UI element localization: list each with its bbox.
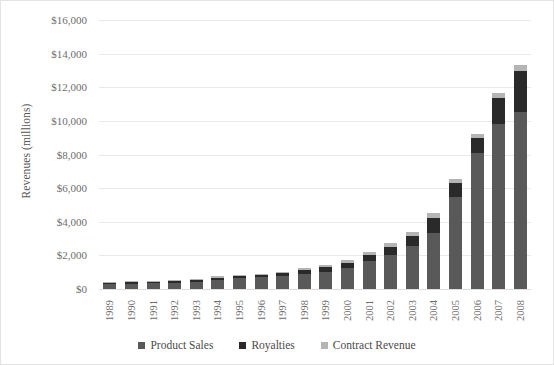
x-axis-tick-label: 1996	[256, 300, 267, 321]
bar-segment	[168, 283, 181, 289]
x-axis-tick: 1998	[298, 291, 311, 316]
y-axis-tick-label: $16,000	[51, 14, 87, 26]
bar-column[interactable]	[341, 260, 354, 289]
x-axis-tick-label: 2001	[364, 300, 375, 321]
x-axis-tick-label: 2007	[493, 300, 504, 321]
x-axis-tick-label: 1995	[234, 300, 245, 321]
x-axis-tick-label: 2005	[450, 300, 461, 321]
y-axis-tick-label: $0	[76, 283, 87, 295]
x-axis-tick-label: 2003	[407, 300, 418, 321]
legend-swatch-icon	[239, 342, 246, 349]
bar-segment	[427, 233, 440, 289]
bar-segment	[471, 153, 484, 289]
legend-item[interactable]: Royalties	[239, 339, 294, 351]
chart-figure: Revenues (millions) $0$2,000$4,000$6,000…	[0, 0, 554, 365]
legend-item[interactable]: Contract Revenue	[321, 339, 416, 351]
bar-segment	[406, 246, 419, 289]
x-axis-tick: 1989	[103, 291, 116, 316]
bar-segment	[363, 261, 376, 289]
x-axis-tick-label: 1997	[277, 300, 288, 321]
bar-column[interactable]	[449, 179, 462, 289]
bar-segment	[341, 268, 354, 289]
bar-segment	[514, 112, 527, 289]
bar-segment	[384, 255, 397, 289]
bar-column[interactable]	[190, 279, 203, 289]
bar-segment	[190, 282, 203, 289]
legend-item[interactable]: Product Sales	[138, 339, 213, 351]
bar-column[interactable]	[471, 134, 484, 290]
x-axis-tick: 1991	[147, 291, 160, 316]
x-axis-tick-label: 1991	[148, 300, 159, 321]
legend-swatch-icon	[321, 342, 328, 349]
bar-segment	[103, 284, 116, 289]
bar-segment	[255, 277, 268, 289]
y-axis-tick-label: $6,000	[57, 182, 87, 194]
x-axis-tick: 2001	[363, 291, 376, 316]
bar-segment	[298, 274, 311, 289]
bar-column[interactable]	[406, 232, 419, 289]
legend-label: Royalties	[251, 339, 294, 351]
x-axis-tick-label: 2000	[342, 300, 353, 321]
bar-column[interactable]	[363, 252, 376, 289]
x-axis-tick-label: 2004	[428, 300, 439, 321]
x-axis-tick: 1994	[211, 291, 224, 316]
x-axis-tick: 2007	[492, 291, 505, 316]
bar-column[interactable]	[319, 265, 332, 289]
bar-segment	[276, 276, 289, 289]
x-axis-tick: 2000	[341, 291, 354, 316]
y-axis-tick-label: $14,000	[51, 48, 87, 60]
legend-label: Product Sales	[150, 339, 213, 351]
bar-segment	[125, 284, 138, 289]
bar-segment	[427, 218, 440, 233]
x-axis-tick-label: 2008	[515, 300, 526, 321]
x-axis-tick: 1990	[125, 291, 138, 316]
x-axis-tick-label: 1998	[299, 300, 310, 321]
chart-legend: Product SalesRoyaltiesContract Revenue	[1, 339, 553, 351]
x-axis-tick: 1999	[319, 291, 332, 316]
x-axis-tick-label: 1992	[169, 300, 180, 321]
y-axis-tick-label: $12,000	[51, 81, 87, 93]
x-axis-tick: 2003	[406, 291, 419, 316]
y-axis-tick-labels: $0$2,000$4,000$6,000$8,000$10,000$12,000…	[1, 1, 93, 365]
bar-column[interactable]	[384, 243, 397, 289]
bar-column[interactable]	[233, 275, 246, 289]
x-axis-tick: 1995	[233, 291, 246, 316]
bar-segment	[211, 280, 224, 289]
x-axis-tick-label: 1999	[320, 300, 331, 321]
bar-segment	[384, 247, 397, 255]
bar-segment	[492, 98, 505, 124]
x-axis-tick: 2006	[471, 291, 484, 316]
bar-segment	[233, 278, 246, 289]
x-axis-tick-label: 1994	[212, 300, 223, 321]
bar-column[interactable]	[492, 93, 505, 289]
x-axis-tick-label: 2006	[472, 300, 483, 321]
bar-segment	[514, 71, 527, 112]
bar-column[interactable]	[168, 280, 181, 289]
bar-column[interactable]	[211, 276, 224, 289]
gridline	[99, 289, 531, 290]
bar-segment	[319, 272, 332, 289]
plot-area	[99, 20, 531, 289]
bar-column[interactable]	[298, 268, 311, 289]
bar-column[interactable]	[125, 281, 138, 289]
bar-segment	[514, 65, 527, 72]
legend-label: Contract Revenue	[333, 339, 416, 351]
x-axis-tick-labels: 1989199019911992199319941995199619971998…	[99, 291, 531, 335]
x-axis-tick-label: 1990	[126, 300, 137, 321]
bar-column[interactable]	[514, 65, 527, 289]
bar-column[interactable]	[255, 274, 268, 289]
bar-segment	[147, 283, 160, 289]
x-axis-tick: 2005	[449, 291, 462, 316]
bar-segment	[449, 183, 462, 196]
bar-segment	[492, 124, 505, 289]
y-axis-tick-label: $8,000	[57, 149, 87, 161]
legend-swatch-icon	[138, 342, 145, 349]
bar-column[interactable]	[103, 282, 116, 289]
x-axis-tick: 1997	[276, 291, 289, 316]
y-axis-tick-label: $4,000	[57, 216, 87, 228]
bar-column[interactable]	[147, 281, 160, 289]
bar-segment	[449, 197, 462, 289]
bar-column[interactable]	[427, 213, 440, 289]
bar-column[interactable]	[276, 272, 289, 289]
y-axis-tick-label: $2,000	[57, 249, 87, 261]
